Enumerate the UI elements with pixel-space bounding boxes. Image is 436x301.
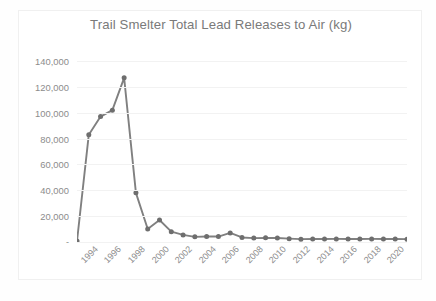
x-axis-tick-label: 1994	[79, 244, 100, 265]
y-axis-tick-label: 40,000	[40, 185, 69, 196]
y-axis-tick-label: 20,000	[40, 211, 69, 222]
y-axis-tick-labels: 140,000120,000100,00080,00060,00040,0002…	[19, 61, 73, 242]
data-point-marker	[393, 237, 398, 242]
data-point-marker	[310, 236, 315, 241]
gridline	[77, 87, 407, 88]
data-point-marker	[334, 236, 339, 241]
x-axis-tick-label: 2004	[196, 244, 217, 265]
y-axis-tick-label: 140,000	[35, 56, 69, 67]
plot-area	[77, 61, 407, 242]
data-point-marker	[275, 235, 280, 240]
gridline	[77, 190, 407, 191]
x-axis-tick-labels: 1994199619982000200220042006200820102012…	[77, 244, 407, 288]
x-axis-tick-label: 2016	[338, 244, 359, 265]
data-point-marker	[405, 237, 408, 242]
data-point-marker	[228, 230, 233, 235]
data-point-marker	[192, 234, 197, 239]
data-point-marker	[369, 236, 374, 241]
data-point-marker	[240, 235, 245, 240]
data-point-marker	[145, 227, 150, 232]
data-point-marker	[263, 235, 268, 240]
page-caption-fragment	[4, 288, 174, 297]
x-axis-tick-label: 2008	[244, 244, 265, 265]
screenshot-root: Trail Smelter Total Lead Releases to Air…	[0, 0, 436, 301]
data-point-marker	[251, 236, 256, 241]
data-point-marker	[357, 237, 362, 242]
chart-title: Trail Smelter Total Lead Releases to Air…	[19, 17, 423, 32]
y-axis-tick-label: 120,000	[35, 81, 69, 92]
gridline	[77, 139, 407, 140]
data-point-marker	[98, 114, 103, 119]
gridline	[77, 216, 407, 217]
chart-container: Trail Smelter Total Lead Releases to Air…	[18, 10, 422, 280]
x-axis-tick-label: 2018	[361, 244, 382, 265]
x-axis-tick-label: 2002	[173, 244, 194, 265]
data-point-marker	[204, 234, 209, 239]
x-axis-tick-label: 2020	[385, 244, 406, 265]
x-axis-tick-label: 2000	[149, 244, 170, 265]
data-point-marker	[181, 232, 186, 237]
data-point-marker	[216, 234, 221, 239]
gridline	[77, 113, 407, 114]
x-axis-tick-label: 1996	[102, 244, 123, 265]
x-axis-tick-label: 1998	[126, 244, 147, 265]
y-axis-tick-label: -	[66, 237, 69, 247]
data-point-marker	[86, 132, 91, 137]
data-point-marker	[169, 229, 174, 234]
y-axis-tick-label: 80,000	[40, 133, 69, 144]
gridline	[77, 61, 407, 62]
x-axis-tick-label: 2010	[267, 244, 288, 265]
gridline	[77, 242, 407, 243]
data-point-marker	[322, 237, 327, 242]
x-axis-tick-label: 2012	[291, 244, 312, 265]
data-point-marker	[157, 218, 162, 223]
data-point-marker	[381, 237, 386, 242]
x-axis-tick-label: 2014	[314, 244, 335, 265]
x-axis-tick-label: 2006	[220, 244, 241, 265]
y-axis-tick-label: 100,000	[35, 107, 69, 118]
gridline	[77, 164, 407, 165]
data-point-marker	[298, 237, 303, 242]
data-point-marker	[122, 75, 127, 80]
data-point-marker	[346, 237, 351, 242]
y-axis-tick-label: 60,000	[40, 159, 69, 170]
data-point-marker	[287, 236, 292, 241]
line-series	[77, 61, 407, 242]
